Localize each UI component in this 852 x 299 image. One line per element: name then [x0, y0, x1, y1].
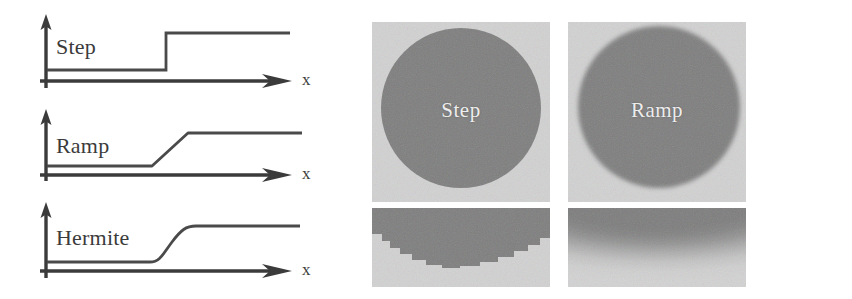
- panel-ramp-disk: Ramp: [568, 22, 746, 202]
- panel-step-caption: Step: [372, 98, 550, 123]
- plot-step-x-axis-label: x: [302, 70, 311, 90]
- plot-hermite-x-axis-label: x: [302, 260, 311, 280]
- filter-profile-plots: Step x Ramp x Hermite: [0, 0, 355, 299]
- panel-step-disk: Step: [372, 22, 550, 202]
- plot-ramp-x-axis-label: x: [302, 164, 311, 184]
- staircase-edge-graphic: [372, 208, 550, 287]
- plot-ramp-svg: [0, 103, 355, 199]
- figure-root: Step x Ramp x Hermite: [0, 0, 852, 299]
- panel-ramp-caption: Ramp: [568, 98, 746, 123]
- plot-step: Step x: [0, 8, 355, 104]
- rendered-disk-panels: Step Ramp: [372, 22, 762, 288]
- plot-ramp: Ramp x: [0, 103, 355, 199]
- plot-step-label: Step: [56, 34, 96, 60]
- plot-hermite-label: Hermite: [56, 225, 129, 251]
- plot-hermite: Hermite x: [0, 196, 355, 292]
- smooth-edge-graphic: [568, 208, 746, 287]
- panel-step-edge-detail: [372, 208, 550, 287]
- plot-ramp-label: Ramp: [56, 133, 109, 159]
- panel-ramp-edge-detail: [568, 208, 746, 287]
